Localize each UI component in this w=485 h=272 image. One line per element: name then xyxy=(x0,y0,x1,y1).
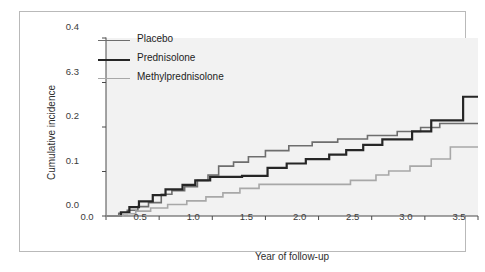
series-line xyxy=(106,147,478,216)
legend-label: Placebo xyxy=(137,33,173,44)
x-axis-label: Year of follow-up xyxy=(106,251,478,262)
legend-label: Prednisolone xyxy=(137,52,195,63)
x-tick-label: 0.5 xyxy=(125,211,155,222)
legend-swatch xyxy=(98,59,130,61)
x-tick-label: 3.5 xyxy=(444,211,474,222)
tick-marks xyxy=(102,38,478,220)
figure-container: Cumulative incidence Year of follow-up 0… xyxy=(0,0,485,272)
legend-swatch xyxy=(98,40,130,41)
x-tick-label: 2.5 xyxy=(338,211,368,222)
y-tick-label: 0.4 xyxy=(53,21,79,32)
x-tick-label: 0.0 xyxy=(72,211,102,222)
y-axis-label: Cumulative incidence xyxy=(46,63,57,203)
legend-swatch xyxy=(98,78,130,79)
y-tick-label: 0.1 xyxy=(53,155,79,166)
x-tick-label: 2.0 xyxy=(285,211,315,222)
y-tick-label: 0.2 xyxy=(53,110,79,121)
chart-canvas xyxy=(20,12,485,272)
x-tick-label: 1.0 xyxy=(178,211,208,222)
y-tick-label: 6.3 xyxy=(53,66,79,77)
x-tick-label: 3.0 xyxy=(391,211,421,222)
y-tick-label: 0.0 xyxy=(53,199,79,210)
x-tick-label: 1.5 xyxy=(231,211,261,222)
figure-frame: Cumulative incidence Year of follow-up 0… xyxy=(19,11,466,252)
legend-label: Methylprednisolone xyxy=(137,71,224,82)
series-layer xyxy=(106,97,478,216)
series-line xyxy=(106,123,478,216)
